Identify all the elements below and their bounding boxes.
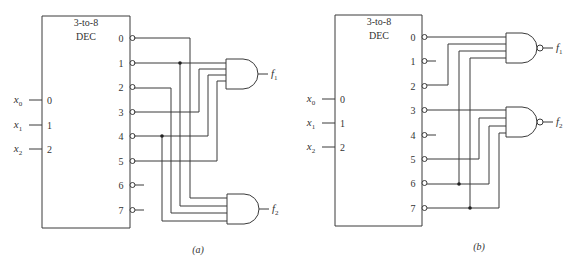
output-pin-label: 2 — [119, 82, 124, 93]
inversion-bubble — [422, 133, 427, 138]
output-pin-label: 0 — [119, 33, 124, 44]
svg-text:f1: f1 — [271, 67, 278, 82]
decoder-output-pin: 2 — [411, 81, 428, 92]
svg-text:0: 0 — [47, 95, 52, 106]
svg-text:x0: x0 — [13, 93, 23, 108]
and-gate-f2-a: f2 — [227, 194, 279, 224]
decoder-output-pin: 5 — [119, 156, 136, 167]
and-gate-f1-a: f1 — [226, 59, 278, 89]
caption-a: (a) — [192, 244, 204, 256]
wire-b-out5-to-f2 — [427, 118, 506, 159]
decoder-title-b-line1: 3-to-8 — [367, 16, 391, 27]
svg-text:1: 1 — [47, 120, 52, 131]
inversion-bubble — [130, 208, 135, 213]
inversion-bubble — [422, 181, 427, 186]
junction-b-out6 — [457, 182, 461, 186]
junction-b-out7 — [468, 206, 472, 210]
decoder-title-a-line2: DEC — [76, 31, 96, 42]
decoder-outputs-a: 01234567 — [119, 33, 145, 216]
wiring-a — [134, 38, 227, 221]
decoder-input-a-0: x0 0 — [13, 93, 52, 108]
output-pin-label: 2 — [411, 81, 416, 92]
inversion-bubble — [422, 59, 427, 64]
svg-text:2: 2 — [340, 142, 345, 153]
decoder-output-pin: 0 — [119, 33, 136, 44]
svg-text:x2: x2 — [13, 142, 23, 157]
wiring-b — [427, 37, 506, 210]
output-pin-label: 6 — [411, 178, 416, 189]
nand-gate-f1-b: f1 — [506, 33, 563, 63]
svg-text:1: 1 — [340, 118, 345, 129]
decoder-outputs-b: 01234567 — [411, 32, 437, 214]
caption-b: (b) — [473, 241, 485, 253]
decoder-output-pin: 6 — [411, 178, 428, 189]
decoder-output-pin: 6 — [119, 180, 145, 191]
svg-text:f1: f1 — [556, 41, 563, 56]
nand-gate-f2-b: f2 — [506, 107, 563, 137]
decoder-input-b-2: x2 2 — [306, 140, 345, 155]
junction-a-out4 — [160, 134, 164, 138]
decoder-output-pin: 4 — [411, 130, 437, 141]
decoder-input-b-1: x1 1 — [306, 116, 345, 131]
svg-text:x1: x1 — [13, 118, 23, 133]
inversion-bubble — [422, 206, 427, 211]
decoder-output-pin: 7 — [411, 203, 428, 214]
inversion-bubble — [422, 84, 427, 89]
svg-text:2: 2 — [47, 144, 52, 155]
decoder-box-a — [42, 16, 130, 228]
decoder-output-pin: 1 — [119, 58, 136, 69]
decoder-input-a-1: x1 1 — [13, 118, 52, 133]
decoder-input-b-0: x0 0 — [306, 92, 345, 107]
wire-b-out2-to-f1 — [427, 44, 506, 85]
inversion-bubble — [130, 85, 135, 90]
output-pin-label: 4 — [411, 130, 416, 141]
output-pin-label: 1 — [411, 56, 416, 67]
inversion-bubble — [130, 183, 135, 188]
inversion-bubble — [422, 108, 427, 113]
figure-a: 3-to-8 DEC x0 0 x1 1 x2 2 01234567 — [13, 16, 279, 256]
svg-text:x0: x0 — [306, 92, 316, 107]
decoder-output-pin: 0 — [411, 32, 428, 43]
output-pin-label: 1 — [119, 58, 124, 69]
output-pin-label: 4 — [119, 131, 124, 142]
output-pin-label: 7 — [411, 203, 416, 214]
output-pin-label: 3 — [411, 105, 416, 116]
output-pin-label: 3 — [119, 107, 124, 118]
decoder-title-b-line2: DEC — [369, 30, 389, 41]
wire-b-out6-to-f2 — [427, 126, 506, 184]
wire-b-out7-to-f2 — [427, 133, 506, 208]
decoder-output-pin: 5 — [411, 154, 428, 165]
junction-a-out1 — [178, 61, 182, 65]
output-pin-label: 7 — [119, 205, 124, 216]
output-pin-label: 6 — [119, 180, 124, 191]
output-pin-label: 5 — [411, 154, 416, 165]
output-pin-label: 0 — [411, 32, 416, 43]
decoder-title-a-line1: 3-to-8 — [74, 17, 98, 28]
decoder-output-pin: 7 — [119, 205, 145, 216]
svg-text:0: 0 — [340, 94, 345, 105]
svg-text:f2: f2 — [272, 202, 279, 217]
decoder-output-pin: 2 — [119, 82, 136, 93]
figure-b: 3-to-8 DEC x0 0 x1 1 x2 2 01234567 — [306, 15, 563, 253]
decoder-input-a-2: x2 2 — [13, 142, 52, 157]
decoder-circuits-diagram: 3-to-8 DEC x0 0 x1 1 x2 2 01234567 — [0, 0, 584, 270]
wire-a-out1-to-f2 — [180, 63, 227, 206]
decoder-output-pin: 4 — [119, 131, 136, 142]
decoder-output-pin: 1 — [411, 56, 437, 67]
output-pin-label: 5 — [119, 156, 124, 167]
decoder-output-pin: 3 — [119, 107, 136, 118]
decoder-box-b — [335, 15, 422, 226]
svg-text:x1: x1 — [306, 116, 316, 131]
inversion-bubble — [422, 157, 427, 162]
svg-text:x2: x2 — [306, 140, 316, 155]
inversion-bubble — [422, 35, 427, 40]
decoder-output-pin: 3 — [411, 105, 428, 116]
svg-text:f2: f2 — [556, 115, 563, 130]
